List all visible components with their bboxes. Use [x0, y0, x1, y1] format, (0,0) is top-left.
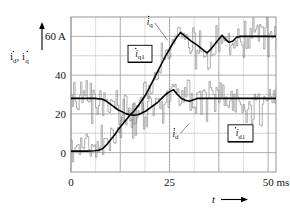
annotation-iq-accent-dot	[148, 16, 149, 17]
y-tick-label-0: 0	[61, 147, 67, 159]
y-tick-label-40: 40	[55, 69, 67, 81]
x-tick-label-0: 0	[68, 176, 74, 188]
figure-container: 60 A 40 20 0 0 25 50 ms id, iq t	[0, 0, 290, 210]
annotation-id1: id1	[228, 125, 253, 142]
y-label-id-accent-dot	[13, 51, 15, 53]
ann-iq1-sub: q1	[138, 53, 146, 61]
annotation-iq1-accent-dot	[135, 48, 136, 49]
y-label-iq-sub: q	[25, 57, 29, 65]
y-tick-label-20: 20	[55, 108, 67, 120]
annotation-id-accent-dot	[174, 128, 175, 129]
ann-id-sub: d	[175, 133, 179, 141]
ann-iq-sub: q	[149, 21, 153, 29]
ann-id1-sub: d1	[238, 133, 246, 141]
y-label-iq-accent-dot	[27, 51, 29, 53]
x-tick-label-50: 50 ms	[263, 176, 290, 188]
current-plot-svg: 60 A 40 20 0 0 25 50 ms id, iq t	[0, 0, 290, 210]
x-tick-label-25: 25	[164, 176, 176, 188]
annotation-id1-accent-dot	[235, 127, 236, 128]
y-tick-label-60: 60 A	[45, 30, 66, 42]
annotation-iq1: iq1	[128, 45, 152, 62]
